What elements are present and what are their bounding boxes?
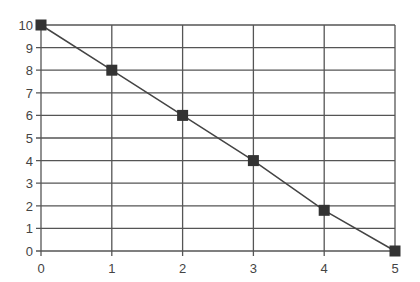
square-marker-icon xyxy=(36,20,47,31)
x-tick-label: 3 xyxy=(250,261,257,276)
square-marker-icon xyxy=(106,65,117,76)
y-tick-label: 10 xyxy=(19,18,33,33)
square-marker-icon xyxy=(248,155,259,166)
y-tick-label: 6 xyxy=(26,108,33,123)
square-marker-icon xyxy=(177,110,188,121)
y-tick-label: 0 xyxy=(26,244,33,259)
y-tick-label: 2 xyxy=(26,199,33,214)
x-tick-label: 1 xyxy=(108,261,115,276)
square-marker-icon xyxy=(319,205,330,216)
x-tick-label: 0 xyxy=(37,261,44,276)
y-axis-tick-labels: 012345678910 xyxy=(19,18,33,259)
y-tick-label: 4 xyxy=(26,154,33,169)
y-tick-label: 5 xyxy=(26,131,33,146)
grid-lines xyxy=(36,25,395,256)
y-tick-label: 7 xyxy=(26,86,33,101)
y-tick-label: 9 xyxy=(26,41,33,56)
y-tick-label: 8 xyxy=(26,63,33,78)
x-tick-label: 5 xyxy=(391,261,398,276)
square-marker-icon xyxy=(390,246,401,257)
line-chart: 012345678910 012345 xyxy=(0,0,420,282)
y-tick-label: 1 xyxy=(26,221,33,236)
y-tick-label: 3 xyxy=(26,176,33,191)
x-tick-label: 4 xyxy=(321,261,328,276)
x-axis-tick-labels: 012345 xyxy=(37,261,398,276)
x-tick-label: 2 xyxy=(179,261,186,276)
